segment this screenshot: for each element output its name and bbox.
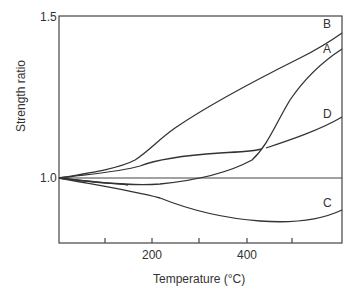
x-axis-label: Temperature (°C)	[153, 272, 245, 286]
curve-a	[59, 49, 342, 185]
series-label-d: D	[323, 107, 332, 121]
x-tick-400: 400	[237, 248, 257, 262]
curve-d	[59, 117, 342, 178]
x-tick-200: 200	[142, 248, 162, 262]
y-tick-1-0: 1.0	[40, 171, 57, 185]
chart-canvas	[0, 0, 359, 298]
series-label-c: C	[323, 196, 332, 210]
series-label-a: A	[323, 42, 331, 56]
plot-frame	[59, 16, 342, 243]
y-axis-label: Strength ratio	[14, 60, 28, 132]
curve-c	[59, 178, 342, 222]
x-ticks	[105, 238, 292, 243]
y-tick-1-5: 1.5	[40, 10, 57, 24]
series-label-b: B	[323, 17, 331, 31]
curve-b	[59, 33, 342, 178]
